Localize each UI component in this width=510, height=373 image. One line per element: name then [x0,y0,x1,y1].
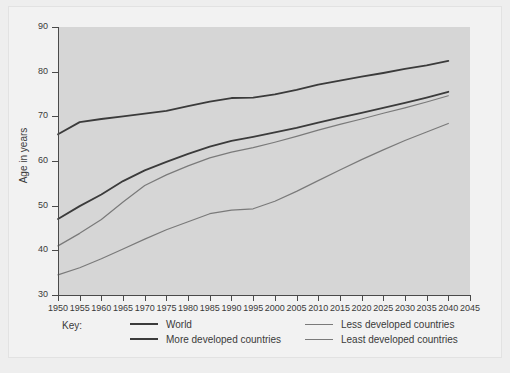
y-tick-mark [52,27,58,28]
y-axis-line [58,27,59,296]
x-tick-mark [275,296,276,301]
x-tick-mark [383,296,384,301]
series-line-more-developed-countries [58,61,448,134]
legend-label-more-developed-countries: More developed countries [166,333,281,347]
x-tick-mark [58,296,59,301]
legend-item-more-developed-countries[interactable]: More developed countries [130,333,281,347]
chart-legend: Key: World More developed countries Less… [62,318,492,350]
x-tick-mark [362,296,363,301]
page-background: 30405060708090 1950195519601965197019751… [0,0,510,373]
legend-item-world[interactable]: World [130,318,192,332]
x-tick-mark [253,296,254,301]
x-tick-mark [448,296,449,301]
x-tick-mark [231,296,232,301]
y-tick-label: 70 [26,111,48,120]
y-tick-label: 90 [26,22,48,31]
x-tick-mark [427,296,428,301]
legend-label-world: World [166,318,192,332]
series-line-world [58,92,448,219]
x-tick-mark [318,296,319,301]
x-tick-mark [210,296,211,301]
y-tick-label: 60 [26,156,48,165]
legend-swatch-more-developed-countries [130,338,158,340]
y-tick-mark [52,116,58,117]
y-tick-label: 80 [26,67,48,76]
legend-label-less-developed-countries: Less developed countries [341,318,454,332]
y-tick-mark [52,250,58,251]
legend-item-least-developed-countries[interactable]: Least developed countries [305,333,458,347]
series-line-least-developed-countries [58,123,448,274]
series-line-less-developed-countries [58,96,448,246]
x-tick-mark [297,296,298,301]
x-tick-mark [340,296,341,301]
x-axis-line [58,295,471,296]
legend-item-less-developed-countries[interactable]: Less developed countries [305,318,454,332]
legend-swatch-less-developed-countries [305,324,333,325]
y-tick-mark [52,206,58,207]
y-tick-mark [52,161,58,162]
legend-swatch-least-developed-countries [305,339,333,340]
x-tick-mark [405,296,406,301]
x-tick-mark [188,296,189,301]
x-tick-mark [101,296,102,301]
life-expectancy-line-chart: 30405060708090 1950195519601965197019751… [0,0,510,373]
plot-area [58,27,470,295]
legend-label-least-developed-countries: Least developed countries [341,333,458,347]
x-tick-mark [145,296,146,301]
chart-lines [58,27,470,295]
y-tick-label: 30 [26,290,48,299]
x-tick-mark [80,296,81,301]
x-tick-mark [166,296,167,301]
legend-title: Key: [62,320,82,331]
y-tick-label: 40 [26,245,48,254]
y-axis-label: Age in years [18,101,29,211]
y-tick-label: 50 [26,201,48,210]
x-tick-label: 2045 [455,303,485,313]
legend-swatch-world [130,323,158,325]
x-tick-mark [123,296,124,301]
y-tick-mark [52,72,58,73]
x-tick-mark [470,296,471,301]
